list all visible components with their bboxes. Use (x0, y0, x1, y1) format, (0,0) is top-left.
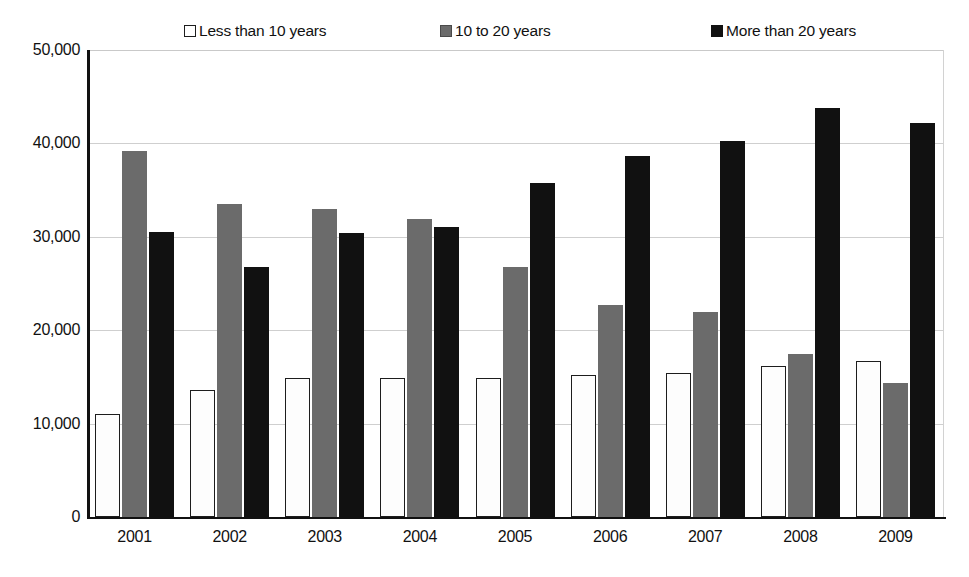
legend-label-less-than-10-years: Less than 10 years (199, 22, 326, 40)
bar (856, 361, 881, 517)
bar-group (856, 50, 935, 517)
bar (666, 373, 691, 517)
bar (339, 233, 364, 517)
legend-swatch-gray-icon (440, 25, 452, 37)
bar (910, 123, 935, 517)
bar (788, 354, 813, 517)
bar-group (190, 50, 269, 517)
bar (380, 378, 405, 517)
legend-label-10-to-20-years: 10 to 20 years (455, 22, 550, 40)
bar (530, 183, 555, 517)
bar-group (285, 50, 364, 517)
bar-group (571, 50, 650, 517)
chart-bars (87, 50, 943, 517)
bar (598, 305, 623, 517)
bar (407, 219, 432, 517)
bar (285, 378, 310, 517)
bar (503, 267, 528, 517)
bar (883, 383, 908, 517)
legend-item-less-than-10-years: Less than 10 years (184, 22, 326, 40)
y-axis-tick-label: 50,000 (2, 41, 80, 59)
x-axis-tick-label: 2002 (212, 528, 246, 546)
x-axis-tick-label: 2006 (593, 528, 627, 546)
y-axis-tick-label: 10,000 (2, 415, 80, 433)
bar (761, 366, 786, 517)
x-axis-labels: 200120022003200420052006200720082009 (87, 528, 943, 554)
x-axis-tick-label: 2008 (783, 528, 817, 546)
y-axis-labels: 010,00020,00030,00040,00050,000 (0, 0, 80, 577)
bar-group (666, 50, 745, 517)
bar (122, 151, 147, 517)
bar-chart: Less than 10 years 10 to 20 years More t… (0, 0, 969, 577)
bar (815, 108, 840, 517)
bar (693, 312, 718, 517)
legend-swatch-white-icon (184, 25, 196, 37)
bar (244, 267, 269, 517)
bar (571, 375, 596, 517)
bar-group (761, 50, 840, 517)
x-axis-tick-label: 2005 (498, 528, 532, 546)
x-axis-tick-label: 2003 (308, 528, 342, 546)
legend-label-more-than-20-years: More than 20 years (726, 22, 856, 40)
bar (95, 414, 120, 517)
bar-group (95, 50, 174, 517)
bar (217, 204, 242, 517)
legend-item-10-to-20-years: 10 to 20 years (440, 22, 550, 40)
legend-swatch-black-icon (711, 25, 723, 37)
chart-legend: Less than 10 years 10 to 20 years More t… (0, 22, 969, 48)
bar (149, 232, 174, 517)
x-axis-tick-label: 2007 (688, 528, 722, 546)
x-axis-tick-label: 2004 (403, 528, 437, 546)
y-axis-tick-label: 40,000 (2, 134, 80, 152)
bar (720, 141, 745, 517)
bar (476, 378, 501, 517)
bar (625, 156, 650, 517)
bar (190, 390, 215, 517)
y-axis-tick-label: 30,000 (2, 228, 80, 246)
y-axis-tick-label: 0 (2, 508, 80, 526)
bar-group (380, 50, 459, 517)
bar (434, 227, 459, 517)
y-axis-tick-label: 20,000 (2, 321, 80, 339)
bar (312, 209, 337, 517)
legend-item-more-than-20-years: More than 20 years (711, 22, 856, 40)
x-axis-tick-label: 2001 (117, 528, 151, 546)
bar-group (476, 50, 555, 517)
x-axis-tick-label: 2009 (878, 528, 912, 546)
